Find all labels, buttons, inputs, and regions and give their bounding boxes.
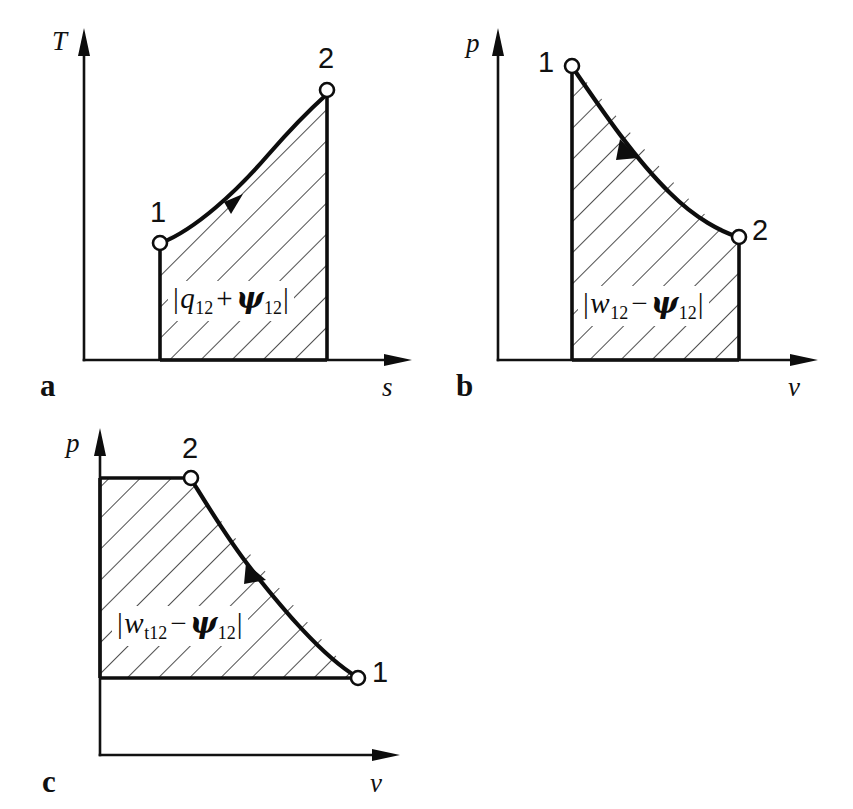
y-axis-label-a: T (52, 26, 69, 56)
area-label-c-sub2: 12 (218, 623, 236, 643)
x-axis-arrow-a (384, 354, 412, 366)
state-point-1-b (565, 59, 579, 73)
area-label-c-sub1: t12 (144, 623, 167, 643)
state-label-2-a: 2 (318, 42, 334, 74)
area-label-a-operator: + (213, 282, 236, 314)
panel-letter-c: c (42, 764, 56, 799)
area-label-b-symbol1: w (590, 287, 610, 319)
area-label-b-sub1: 12 (610, 303, 628, 323)
area-label-a-close-bar: | (282, 282, 290, 314)
area-label-a: |q12+ψ12| (168, 281, 294, 321)
area-label-b-close-bar: | (697, 287, 705, 319)
area-label-c: |wt12−ψ12| (112, 606, 248, 646)
x-axis-label-a: s (382, 372, 393, 402)
panel-letter-a: a (40, 368, 56, 403)
panel-c: p v 2 1 c (0, 400, 460, 809)
state-label-2-c: 2 (182, 432, 198, 464)
panel-b: p v 1 2 b (420, 0, 853, 410)
area-label-c-symbol1: w (124, 607, 144, 639)
thermodynamic-figure: T s 1 2 a |q12+ψ12| (0, 0, 853, 809)
area-label-a-symbol2: ψ (236, 281, 264, 315)
x-axis-label-c: v (370, 768, 382, 798)
y-axis-arrow-c (94, 428, 106, 456)
state-label-1-a: 1 (150, 196, 166, 228)
area-label-c-operator: − (167, 607, 190, 639)
area-label-b: |w12−ψ12| (578, 286, 709, 326)
state-label-1-c: 1 (372, 656, 388, 688)
state-point-2-b (732, 230, 746, 244)
panel-a: T s 1 2 a (0, 0, 440, 410)
area-label-c-symbol2: ψ (190, 606, 218, 640)
state-label-1-b: 1 (538, 46, 554, 78)
y-axis-label-b: p (464, 28, 480, 58)
x-axis-label-b: v (788, 372, 800, 402)
area-label-b-operator: − (628, 287, 651, 319)
area-label-a-symbol1: q (180, 282, 195, 314)
state-point-1-a (153, 236, 167, 250)
y-axis-arrow-b (492, 28, 504, 56)
y-axis-label-c: p (64, 428, 80, 458)
state-point-2-c (184, 471, 198, 485)
state-label-2-b: 2 (752, 214, 768, 246)
area-label-b-sub2: 12 (679, 303, 697, 323)
hatched-area-a (155, 80, 335, 365)
x-axis-arrow-b (790, 354, 818, 366)
state-point-1-c (351, 671, 365, 685)
y-axis-arrow-a (78, 28, 90, 56)
area-label-b-symbol2: ψ (651, 286, 679, 320)
area-label-c-close-bar: | (236, 607, 244, 639)
panel-letter-b: b (456, 368, 473, 403)
x-axis-arrow-c (372, 749, 400, 761)
area-label-a-sub2: 12 (264, 298, 282, 318)
state-point-2-a (320, 83, 334, 97)
area-label-a-sub1: 12 (195, 298, 213, 318)
